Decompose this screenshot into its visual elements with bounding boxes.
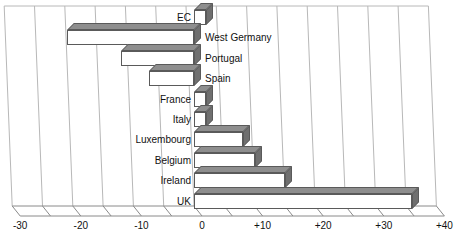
bar-spain [149, 71, 194, 86]
bar-front-face [194, 173, 285, 188]
bar-top-face [194, 146, 262, 153]
bar-top-face [121, 44, 201, 51]
bar-top-face [67, 23, 201, 30]
bar-uk [194, 194, 412, 209]
bar-front-face [194, 194, 412, 209]
category-label-uk: UK [177, 196, 191, 208]
bar-top-face [194, 166, 292, 173]
x-tick-plus20: +20 [303, 220, 343, 231]
category-label-ireland: Ireland [160, 175, 191, 187]
category-label-italy: Italy [173, 114, 191, 126]
x-tick-minus20: -20 [61, 220, 101, 231]
x-tick-minus30: -30 [0, 220, 40, 231]
bar-front-face [149, 71, 194, 86]
category-label-spain: Spain [205, 73, 231, 85]
category-label-belgium: Belgium [155, 155, 191, 167]
x-tick-plus40: +40 [424, 220, 458, 231]
x-tick-plus10: +10 [243, 220, 283, 231]
category-label-france: France [160, 94, 191, 106]
bar-top-face [194, 187, 419, 194]
x-tick-0: 0 [182, 220, 222, 231]
x-tick-minus10: -10 [121, 220, 161, 231]
bar-ireland [194, 173, 285, 188]
category-label-west-germany: West Germany [205, 32, 272, 44]
category-label-portugal: Portugal [205, 53, 242, 65]
x-tick-plus30: +30 [364, 220, 404, 231]
category-label-luxembourg: Luxembourg [135, 134, 191, 146]
bar-top-face [194, 125, 250, 132]
